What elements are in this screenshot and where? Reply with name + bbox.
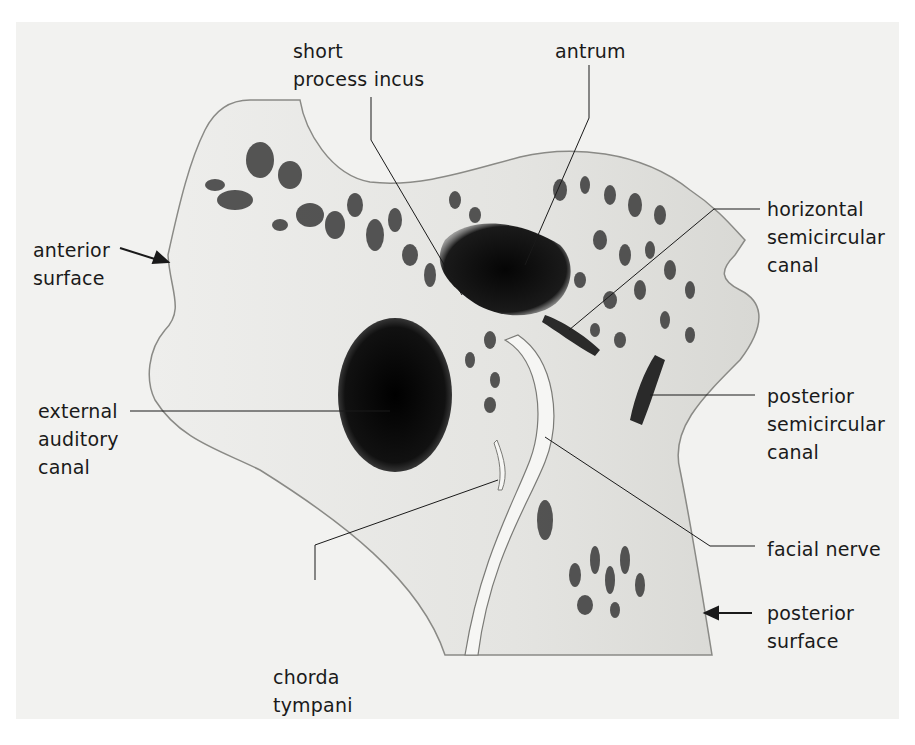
external-auditory-canal-shape [338,318,452,472]
label-anterior-surface: anteriorsurface [33,236,110,292]
label-horizontal-semicircular-canal: horizontalsemicircularcanal [767,195,885,279]
label-external-auditory-canal: externalauditorycanal [38,397,119,481]
label-short-process-incus: shortprocess incus [293,37,424,93]
label-posterior-surface: posteriorsurface [767,599,854,655]
label-facial-nerve: facial nerve [767,535,881,563]
label-chorda-tympani: chordatympani [273,663,353,719]
label-posterior-semicircular-canal: posteriorsemicircularcanal [767,382,885,466]
label-antrum: antrum [555,37,626,65]
bone-outline [149,100,759,655]
